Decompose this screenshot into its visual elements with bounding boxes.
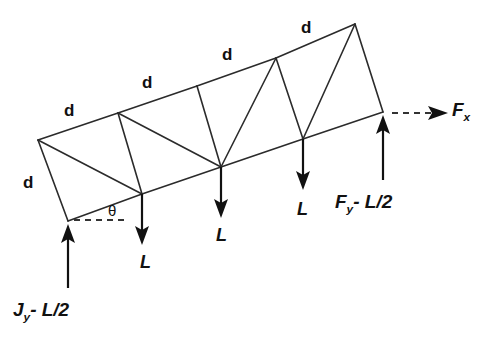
load-label-3: L <box>297 200 308 218</box>
member-diagonal-4 <box>303 24 355 139</box>
d-label-top-4: d <box>301 19 311 36</box>
theta-angle-label: θ <box>108 203 116 218</box>
reaction-jy-symbol: J <box>13 299 24 320</box>
load-arrow-2 <box>214 167 228 218</box>
reaction-jy-label: Jy- L/2 <box>13 300 69 323</box>
member-end-post-right <box>355 24 383 112</box>
member-bottom-chord-2 <box>142 167 221 194</box>
load-label-2: L <box>216 226 227 244</box>
member-top-chord-4 <box>276 24 355 58</box>
truss-svg-canvas <box>0 0 499 353</box>
truss-diagram: d d d d d θ L L L Fx Fy- L/2 Jy- L/2 <box>0 0 499 353</box>
top-chord-group <box>38 24 355 140</box>
member-vertical-web-2 <box>197 86 221 167</box>
force-fx-symbol: F <box>452 99 464 120</box>
web-member-group <box>38 24 355 194</box>
member-vertical-web-3 <box>276 58 303 139</box>
reaction-fy-label: Fy- L/2 <box>335 192 392 215</box>
d-label-end-post: d <box>23 174 33 191</box>
member-bottom-chord-1 <box>68 194 142 221</box>
reaction-fy-symbol: F <box>335 191 347 212</box>
member-top-chord-1 <box>38 113 118 140</box>
d-label-top-2: d <box>142 74 152 91</box>
reaction-arrow-right-horizontal <box>392 106 448 120</box>
load-arrow-3 <box>296 139 310 190</box>
force-fx-label: Fx <box>452 100 470 123</box>
member-diagonal-1 <box>38 140 142 194</box>
reaction-arrow-left <box>61 224 75 288</box>
reaction-arrow-right-vertical <box>376 115 390 180</box>
member-bottom-chord-4 <box>303 112 383 139</box>
reaction-jy-remainder: - L/2 <box>30 299 69 320</box>
member-vertical-web-1 <box>118 113 142 194</box>
member-top-chord-2 <box>118 86 197 113</box>
reaction-fy-remainder: - L/2 <box>353 191 392 212</box>
load-arrow-1 <box>135 194 149 245</box>
member-diagonal-2 <box>118 113 221 167</box>
d-label-top-3: d <box>222 46 232 63</box>
member-end-post-left <box>38 140 68 221</box>
d-label-top-1: d <box>64 102 74 119</box>
load-label-1: L <box>140 253 151 271</box>
force-fx-subscript: x <box>464 110 471 123</box>
